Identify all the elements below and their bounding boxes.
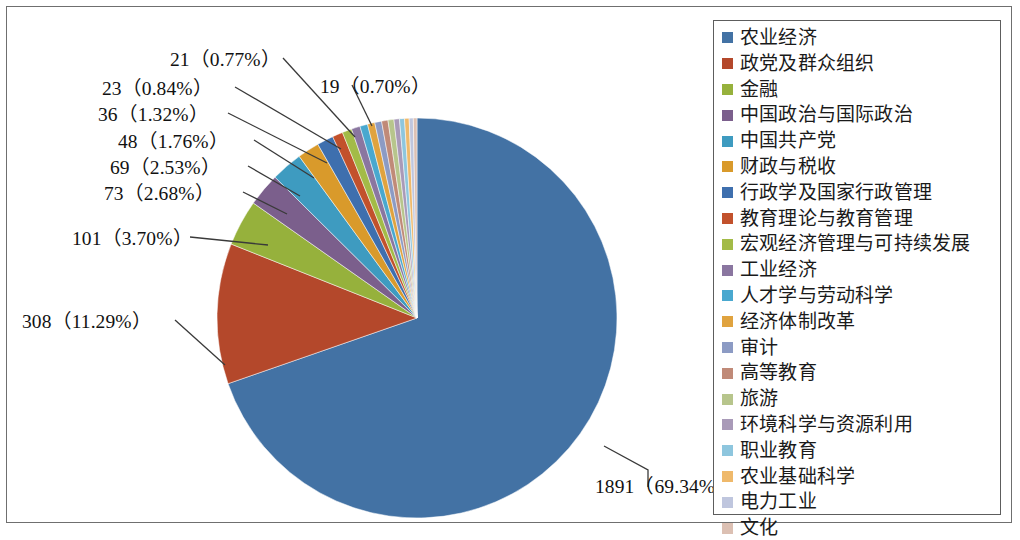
legend-color-swatch bbox=[722, 58, 733, 69]
legend-item[interactable]: 经济体制改革 bbox=[722, 309, 1000, 335]
legend-color-swatch bbox=[722, 368, 733, 379]
legend-item[interactable]: 电力工业 bbox=[722, 489, 1000, 515]
legend-item-label: 教育理论与教育管理 bbox=[740, 206, 913, 232]
legend-color-swatch bbox=[722, 523, 733, 534]
legend-color-swatch bbox=[722, 445, 733, 456]
legend-item[interactable]: 财政与税收 bbox=[722, 154, 1000, 180]
legend-item-label: 财政与税收 bbox=[740, 154, 836, 180]
chart-legend: 农业经济政党及群众组织金融中国政治与国际政治中国共产党财政与税收行政学及国家行政… bbox=[713, 20, 1001, 515]
legend-item[interactable]: 工业经济 bbox=[722, 257, 1000, 283]
legend-item-label: 行政学及国家行政管理 bbox=[740, 180, 932, 206]
legend-item[interactable]: 旅游 bbox=[722, 386, 1000, 412]
legend-item[interactable]: 宏观经济管理与可持续发展 bbox=[722, 231, 1000, 257]
legend-item-label: 职业教育 bbox=[740, 438, 817, 464]
legend-color-swatch bbox=[722, 110, 733, 121]
legend-item-label: 环境科学与资源利用 bbox=[740, 412, 913, 438]
legend-color-swatch bbox=[722, 136, 733, 147]
legend-color-swatch bbox=[722, 32, 733, 43]
legend-item[interactable]: 职业教育 bbox=[722, 438, 1000, 464]
legend-item[interactable]: 农业基础科学 bbox=[722, 464, 1000, 490]
legend-color-swatch bbox=[722, 239, 733, 250]
data-label-23: 23（0.84%） bbox=[102, 72, 213, 101]
legend-item-label: 农业基础科学 bbox=[740, 464, 855, 490]
legend-item-label: 中国共产党 bbox=[740, 128, 836, 154]
data-label-19: 19（0.70%） bbox=[320, 70, 431, 99]
legend-item-label: 电力工业 bbox=[740, 489, 817, 515]
pie-plot-area: 1891（69.34%） 308（11.29%） 101（3.70%） 73（2… bbox=[0, 0, 713, 531]
legend-item-label: 文化 bbox=[740, 515, 778, 540]
legend-item[interactable]: 环境科学与资源利用 bbox=[722, 412, 1000, 438]
legend-item-label: 工业经济 bbox=[740, 257, 817, 283]
legend-color-swatch bbox=[722, 161, 733, 172]
legend-color-swatch bbox=[722, 290, 733, 301]
legend-item-label: 审计 bbox=[740, 335, 778, 361]
legend-item-label: 旅游 bbox=[740, 386, 778, 412]
data-label-36: 36（1.32%） bbox=[98, 98, 209, 127]
legend-item-label: 人才学与劳动科学 bbox=[740, 283, 894, 309]
legend-item[interactable]: 中国共产党 bbox=[722, 128, 1000, 154]
legend-item-label: 政党及群众组织 bbox=[740, 51, 874, 77]
legend-item-label: 农业经济 bbox=[740, 25, 817, 51]
legend-color-swatch bbox=[722, 213, 733, 224]
legend-item-label: 经济体制改革 bbox=[740, 309, 855, 335]
data-label-308: 308（11.29%） bbox=[22, 305, 152, 334]
legend-item-label: 中国政治与国际政治 bbox=[740, 102, 913, 128]
data-label-21: 21（0.77%） bbox=[170, 43, 281, 72]
legend-item-label: 金融 bbox=[740, 77, 778, 103]
pie-slice-group bbox=[217, 118, 617, 518]
data-label-101: 101（3.70%） bbox=[72, 222, 193, 251]
data-label-73: 73（2.68%） bbox=[104, 177, 215, 206]
data-label-48: 48（1.76%） bbox=[118, 125, 229, 154]
legend-item[interactable]: 教育理论与教育管理 bbox=[722, 206, 1000, 232]
legend-item[interactable]: 文化 bbox=[722, 515, 1000, 540]
legend-item[interactable]: 金融 bbox=[722, 77, 1000, 103]
data-label-69: 69（2.53%） bbox=[110, 151, 221, 180]
legend-item[interactable]: 中国政治与国际政治 bbox=[722, 102, 1000, 128]
legend-item[interactable]: 高等教育 bbox=[722, 360, 1000, 386]
legend-item[interactable]: 行政学及国家行政管理 bbox=[722, 180, 1000, 206]
legend-color-swatch bbox=[722, 187, 733, 198]
legend-item[interactable]: 农业经济 bbox=[722, 25, 1000, 51]
legend-item[interactable]: 政党及群众组织 bbox=[722, 51, 1000, 77]
legend-color-swatch bbox=[722, 342, 733, 353]
legend-item[interactable]: 人才学与劳动科学 bbox=[722, 283, 1000, 309]
legend-color-swatch bbox=[722, 497, 733, 508]
legend-color-swatch bbox=[722, 84, 733, 95]
legend-color-swatch bbox=[722, 471, 733, 482]
legend-color-swatch bbox=[722, 265, 733, 276]
legend-color-swatch bbox=[722, 316, 733, 327]
legend-item[interactable]: 审计 bbox=[722, 335, 1000, 361]
legend-color-swatch bbox=[722, 394, 733, 405]
legend-item-label: 高等教育 bbox=[740, 360, 817, 386]
legend-item-label: 宏观经济管理与可持续发展 bbox=[740, 231, 970, 257]
legend-color-swatch bbox=[722, 419, 733, 430]
